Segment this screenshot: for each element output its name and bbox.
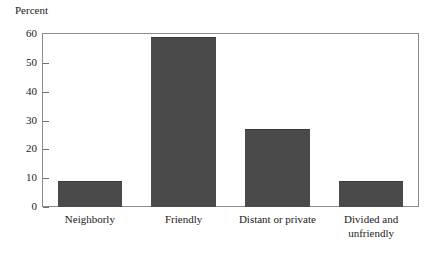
x-category-label-line: Friendly <box>137 213 231 227</box>
bar <box>58 181 123 207</box>
x-category-label: Divided andunfriendly <box>324 213 418 240</box>
x-category-label: Distant or private <box>231 213 325 227</box>
bar <box>339 181 404 207</box>
x-category-label: Friendly <box>137 213 231 227</box>
x-category-label-line: unfriendly <box>324 227 418 241</box>
x-category-label: Neighborly <box>43 213 137 227</box>
bar <box>151 37 216 207</box>
x-category-label-line: Divided and <box>324 213 418 227</box>
y-tick-label: 0 <box>32 201 38 212</box>
x-category-label-line: Distant or private <box>231 213 325 227</box>
y-tick-label: 20 <box>26 143 37 154</box>
y-tick-label: 40 <box>26 86 37 97</box>
plot-area <box>43 34 418 207</box>
y-tick-label: 30 <box>26 115 37 126</box>
y-axis-tick-labels: 0102030405060 <box>0 0 37 257</box>
x-category-label-line: Neighborly <box>43 213 137 227</box>
y-tick-label: 50 <box>26 57 37 68</box>
bar-chart: Percent 0102030405060 NeighborlyFriendly… <box>0 0 437 257</box>
y-tick-mark <box>43 207 49 208</box>
bar <box>245 129 310 207</box>
y-tick-label: 10 <box>26 172 37 183</box>
y-tick-label: 60 <box>26 28 37 39</box>
